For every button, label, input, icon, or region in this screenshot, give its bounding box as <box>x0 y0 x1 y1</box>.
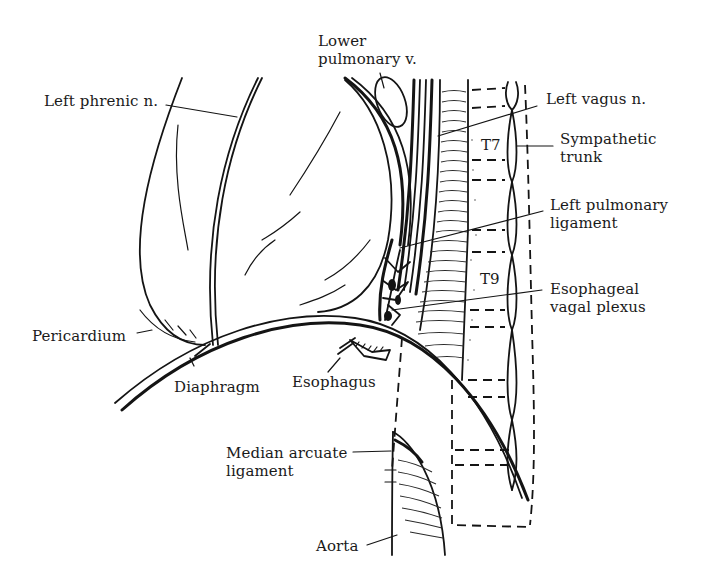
label-left-phrenic-n: Left phrenic n. <box>44 92 158 110</box>
pericardium-shape <box>140 78 205 345</box>
label-aorta: Aorta <box>316 537 359 555</box>
sympathetic-trunk <box>506 82 518 490</box>
esophagus-cut-end <box>338 338 390 360</box>
label-t9: T9 <box>480 270 500 288</box>
label-esophageal-vagal-plexus: Esophageal vagal plexus <box>550 280 646 316</box>
label-median-arcuate-ligament: Median arcuate ligament <box>226 444 347 480</box>
label-diaphragm: Diaphragm <box>174 378 260 396</box>
label-lower-pulmonary-v: Lower pulmonary v. <box>318 32 417 68</box>
label-pericardium: Pericardium <box>32 327 126 345</box>
label-left-vagus-n: Left vagus n. <box>546 90 646 108</box>
anatomy-illustration: Lower pulmonary v. Left phrenic n. Left … <box>0 0 707 583</box>
pleura-edge <box>345 78 411 245</box>
heart-shape <box>245 80 391 312</box>
label-t7: T7 <box>481 136 501 154</box>
leader-lower-pulmonary-v <box>380 73 384 88</box>
label-sympathetic-trunk: Sympathetic trunk <box>560 130 656 166</box>
aorta-dashed-extension <box>392 338 402 470</box>
left-phrenic-nerve <box>210 78 262 345</box>
label-left-pulmonary-ligament: Left pulmonary ligament <box>550 196 668 232</box>
label-esophagus: Esophagus <box>292 373 376 391</box>
